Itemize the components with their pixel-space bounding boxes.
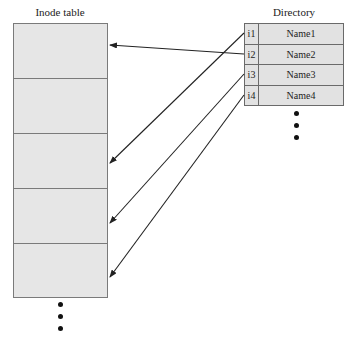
link-arrows (0, 0, 351, 340)
arrow-i1 (110, 33, 244, 163)
arrow-i3 (110, 74, 244, 223)
arrow-i4 (110, 95, 244, 277)
